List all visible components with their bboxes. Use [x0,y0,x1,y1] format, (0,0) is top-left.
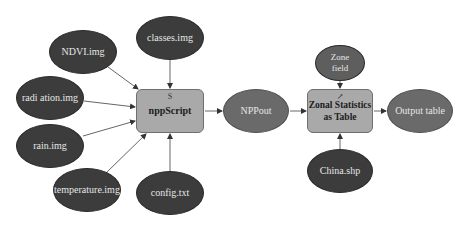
param-china-shp[interactable]: China.shp [307,149,373,193]
edge-ndvi-nppscript [108,67,138,89]
intermediate-nppout[interactable]: NPPout [223,89,289,133]
node-label: temperature.img [54,184,120,196]
param-zone-field[interactable]: Zone field [315,45,365,81]
node-label: NPPout [240,105,271,117]
edge-radiation-nppscript [84,101,135,107]
input-classes-img[interactable]: classes.img [136,16,204,60]
node-label: NDVI.img [61,46,104,58]
node-label: Zone field [331,52,350,74]
node-label: nppScript [149,105,192,117]
input-radiation-img[interactable]: radi ation.img [16,76,84,120]
node-label: radi ation.img [22,92,78,104]
input-rain-img[interactable]: rain.img [16,124,84,168]
edge-temperature-nppscript [107,134,146,172]
tool-nppscript[interactable]: S nppScript [136,89,204,133]
node-label: China.shp [320,165,360,177]
node-label: classes.img [147,32,193,44]
model-diagram: NDVI.img classes.img radi ation.img rain… [0,0,471,228]
script-tool-icon: S [168,91,172,103]
node-label: rain.img [33,140,67,152]
node-label: Output table [395,105,445,117]
node-label: config.txt [151,187,190,199]
output-table[interactable]: Output table [387,89,453,133]
input-temperature-img[interactable]: temperature.img [53,168,121,212]
edge-rain-nppscript [83,121,135,136]
tool-zonal-statistics[interactable]: ↗ Zonal Statistics as Table [307,89,373,133]
input-config-txt[interactable]: config.txt [136,171,204,215]
tool-hammer-icon: ↗ [337,91,344,103]
input-ndvi-img[interactable]: NDVI.img [49,30,117,74]
